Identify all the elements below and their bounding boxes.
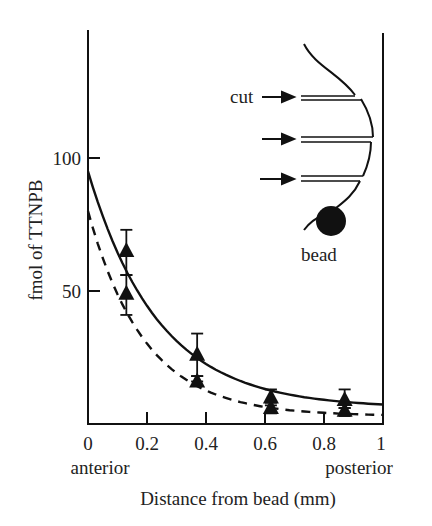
bead-label: bead: [301, 244, 337, 265]
cut-arrows: [260, 92, 294, 184]
solid-data-point: [118, 230, 134, 275]
y-axis-title: fmol of TTNPB: [25, 179, 46, 300]
anterior-label: anterior: [70, 457, 130, 478]
chart-figure: 0 0.2 0.4 0.6 0.8 1 100 50 anterior post…: [0, 0, 432, 526]
y-tick-label-100: 100: [53, 148, 82, 169]
arrow-head-icon: [282, 92, 294, 102]
bead-icon: [316, 206, 346, 236]
limb-outline-seg1: [361, 99, 373, 137]
plot-area: [88, 171, 383, 416]
x-tick-label: 0.4: [194, 433, 218, 454]
x-tick-label: 0: [83, 433, 93, 454]
triangle-marker-icon: [189, 372, 205, 387]
limb-outline-seg2: [363, 142, 371, 176]
limb-outline-seg3: [336, 181, 360, 208]
x-tick-label: 0.8: [312, 433, 336, 454]
triangle-marker-icon: [118, 285, 134, 300]
y-tick-label-50: 50: [62, 281, 81, 302]
cut-label: cut: [230, 86, 254, 107]
dashed-curve: [88, 211, 383, 415]
dashed-data-point: [189, 372, 205, 387]
x-tick-label: 1: [376, 433, 386, 454]
x-tick-label: 0.6: [253, 433, 277, 454]
arrow-head-icon: [282, 134, 294, 144]
limb-outline-top: [304, 44, 355, 95]
triangle-marker-icon: [118, 242, 134, 257]
y-tick-labels: 100 50: [53, 148, 82, 302]
posterior-label: posterior: [325, 457, 393, 478]
x-tick-labels: 0 0.2 0.4 0.6 0.8 1: [83, 433, 386, 454]
limb-bud-inset: [301, 44, 373, 230]
x-axis-title: Distance from bead (mm): [140, 488, 336, 510]
x-tick-label: 0.2: [135, 433, 159, 454]
arrow-head-icon: [282, 174, 294, 184]
